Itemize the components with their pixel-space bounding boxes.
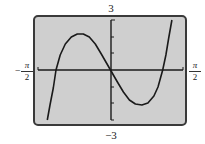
y-min-label: −3 [101,130,121,141]
x-max-denominator: 2 [189,72,201,82]
x-max-numerator: π [189,61,201,72]
x-min-denominator: 2 [21,72,33,82]
x-min-label: π 2 [21,61,33,82]
x-min-numerator: π [21,61,33,72]
y-max-label: 3 [104,3,118,14]
x-max-label: π 2 [189,61,201,82]
x-min-sign: − [15,66,21,76]
